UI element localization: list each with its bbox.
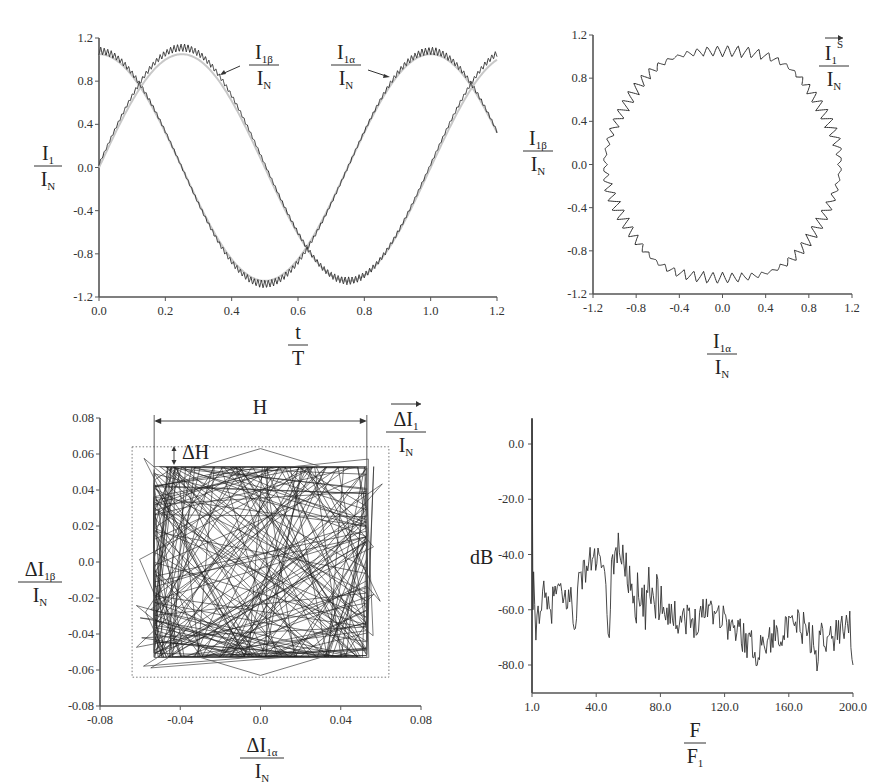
y-tick-label: -0.04 <box>68 627 95 641</box>
x-tick-label: 0.04 <box>330 713 353 727</box>
x-tick-label: 200.0 <box>839 700 867 714</box>
spectrum-curve <box>532 419 853 692</box>
x-tick-label: 0.0 <box>91 304 107 318</box>
svg-text:IN: IN <box>399 434 414 458</box>
y-axis-label: ΔI1βIN <box>18 558 62 608</box>
svg-text:IN: IN <box>33 584 48 608</box>
svg-text:F: F <box>689 719 700 741</box>
y-tick-label: -20.0 <box>498 492 524 506</box>
svg-text:I1S: I1S <box>825 38 843 66</box>
x-axis-label: ΔI1αIN <box>240 734 284 783</box>
x-tick-label: 0.0 <box>715 301 731 315</box>
y-axis-label: I1IN <box>34 142 62 192</box>
y-tick-label: 0.8 <box>77 74 93 88</box>
x-tick-label: 1.0 <box>524 700 540 714</box>
error-trajectory <box>136 458 382 668</box>
y-axis-label: I1βIN <box>523 127 553 177</box>
y-tick-label: 0.0 <box>508 437 524 451</box>
svg-text:IN: IN <box>531 153 546 177</box>
y-tick-label: -0.4 <box>73 204 94 218</box>
x-tick-label: 0.4 <box>758 301 774 315</box>
series-i1-beta <box>99 44 497 285</box>
x-tick-label: -0.8 <box>626 301 646 315</box>
svg-text:IN: IN <box>715 356 730 380</box>
x-tick-label: 0.08 <box>410 713 432 727</box>
series-i1-alpha <box>99 47 497 288</box>
svg-text:F1: F1 <box>687 745 704 769</box>
svg-text:I1: I1 <box>42 142 54 166</box>
x-axis-label: FF1 <box>684 719 706 769</box>
svg-text:ΔI1α: ΔI1α <box>247 734 278 758</box>
y-tick-label: 1.2 <box>571 28 587 42</box>
x-tick-label: 40.0 <box>585 700 607 714</box>
y-tick-label: 1.2 <box>77 31 93 45</box>
y-tick-label: -0.8 <box>73 247 93 261</box>
y-tick-label: -60.0 <box>498 603 524 617</box>
chart-space-vector-locus: 1.20.80.40.0-0.4-0.8-1.2-1.2-0.8-0.40.00… <box>523 28 860 380</box>
y-tick-label: -0.02 <box>68 591 94 605</box>
x-tick-label: -0.04 <box>167 713 194 727</box>
h-label: H <box>253 396 267 418</box>
svg-text:IN: IN <box>255 760 270 783</box>
x-tick-label: 1.2 <box>489 304 505 318</box>
y-tick-label: 0.06 <box>72 447 94 461</box>
x-tick-label: 0.8 <box>357 304 373 318</box>
y-tick-label: 0.08 <box>72 411 94 425</box>
x-tick-label: 0.8 <box>801 301 817 315</box>
svg-text:IN: IN <box>339 67 354 91</box>
locus-curve <box>604 46 841 283</box>
y-tick-label: -0.8 <box>567 244 587 258</box>
y-tick-label: 0.04 <box>72 483 95 497</box>
svg-text:IN: IN <box>41 168 56 192</box>
svg-text:I1β: I1β <box>255 41 273 65</box>
x-tick-label: 120.0 <box>711 700 739 714</box>
y-tick-label: -40.0 <box>498 548 524 562</box>
x-tick-label: 1.2 <box>844 301 860 315</box>
x-tick-label: 1.0 <box>423 304 439 318</box>
svg-text:T: T <box>292 347 304 369</box>
x-axis-label: tT <box>288 321 308 369</box>
x-tick-label: 0.4 <box>224 304 240 318</box>
svg-text:I1α: I1α <box>713 330 731 354</box>
y-tick-label: 0.4 <box>571 114 587 128</box>
legend-space-vector: I1SIN <box>819 35 849 92</box>
chart-harmonic-spectrum: 0.0-20.0-40.0-60.0-80.01.040.080.0120.01… <box>470 418 867 769</box>
y-tick-label: 0.0 <box>571 158 587 172</box>
annotation-i1-alpha: I1αIN <box>331 41 361 91</box>
y-tick-label: 0.8 <box>571 71 587 85</box>
chart-currents-vs-time: 1.20.80.40.0-0.4-0.8-1.20.00.20.40.60.81… <box>34 31 505 369</box>
svg-text:IN: IN <box>827 68 842 92</box>
x-tick-label: 160.0 <box>775 700 803 714</box>
figure: 1.20.80.40.0-0.4-0.8-1.20.00.20.40.60.81… <box>0 0 886 783</box>
y-tick-label: -0.4 <box>567 201 588 215</box>
x-tick-label: 0.6 <box>290 304 306 318</box>
y-axis-label: dB <box>470 546 493 568</box>
reference-cosine <box>99 54 497 281</box>
x-axis-label: I1αIN <box>707 330 737 380</box>
svg-text:I1α: I1α <box>337 41 355 65</box>
legend-error-vector: ΔI1IN <box>386 401 426 458</box>
delta-h-label: ΔH <box>182 441 209 463</box>
y-tick-label: 0.02 <box>72 519 94 533</box>
svg-text:t: t <box>295 321 301 343</box>
y-tick-label: 0.0 <box>77 161 93 175</box>
x-tick-label: 0.0 <box>253 713 269 727</box>
x-tick-label: -0.4 <box>669 301 690 315</box>
y-tick-label: -0.08 <box>68 699 94 713</box>
y-tick-label: 0.0 <box>78 555 94 569</box>
reference-sine <box>99 54 497 281</box>
annotation-i1-beta: I1βIN <box>249 41 279 91</box>
svg-text:ΔI1β: ΔI1β <box>25 558 56 582</box>
y-tick-label: -1.2 <box>73 290 93 304</box>
chart-current-error-box: 0.080.060.040.020.0-0.02-0.04-0.06-0.08-… <box>18 396 432 783</box>
x-tick-label: 0.2 <box>158 304 174 318</box>
y-tick-label: -0.06 <box>68 663 94 677</box>
svg-text:IN: IN <box>257 67 272 91</box>
y-tick-label: -1.2 <box>567 287 587 301</box>
x-tick-label: -0.08 <box>87 713 113 727</box>
svg-text:I1β: I1β <box>529 127 547 151</box>
y-tick-label: 0.4 <box>77 117 93 131</box>
x-tick-label: -1.2 <box>583 301 603 315</box>
y-tick-label: -80.0 <box>498 658 524 672</box>
svg-text:ΔI1: ΔI1 <box>393 408 418 432</box>
